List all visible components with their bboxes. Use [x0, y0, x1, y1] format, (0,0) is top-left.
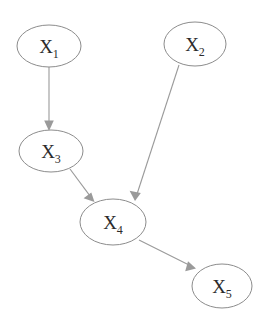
edge-x4-x5 [139, 240, 196, 271]
node-x1-base: X [39, 36, 53, 57]
node-x5[interactable]: X5 [192, 264, 252, 308]
node-x3[interactable]: X3 [19, 130, 83, 172]
node-x5-subscript: 5 [226, 287, 232, 301]
node-x4[interactable]: X4 [80, 199, 146, 245]
edge-x2-x4 [130, 65, 179, 201]
node-layer: X1 X2 X3 X4 [17, 22, 252, 308]
node-x3-subscript: 3 [55, 152, 61, 166]
node-x4-subscript: 4 [117, 223, 123, 237]
edge-x3-x4 [70, 169, 95, 202]
node-x3-base: X [41, 141, 55, 162]
node-x1[interactable]: X1 [17, 25, 81, 67]
edge-line-x2-x4 [137, 65, 179, 194]
node-x1-subscript: 1 [53, 47, 59, 61]
node-x4-base: X [103, 212, 117, 233]
node-x2-subscript: 2 [199, 45, 205, 59]
graph-canvas: X1 X2 X3 X4 [0, 0, 260, 324]
arrow-head-x1-x3 [44, 121, 54, 132]
graph-svg: X1 X2 X3 X4 [0, 0, 260, 324]
edge-line-x3-x4 [70, 169, 89, 195]
edge-line-x4-x5 [139, 240, 190, 265]
edge-x1-x3 [44, 67, 54, 131]
node-x5-base: X [212, 276, 226, 297]
arrow-head-x4-x5 [185, 261, 196, 271]
node-x2-base: X [185, 34, 199, 55]
arrow-head-x2-x4 [130, 191, 141, 201]
node-x2[interactable]: X2 [164, 22, 226, 66]
